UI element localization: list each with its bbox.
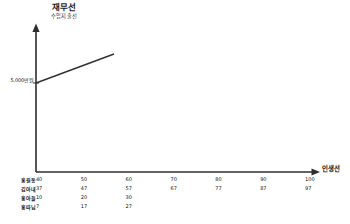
cell-value: [170, 203, 215, 212]
row-label: 김아내: [0, 185, 36, 194]
cell-value: 10: [36, 194, 81, 203]
x-axis-arrowhead: [312, 168, 321, 175]
cell-value: 17: [81, 203, 126, 212]
cell-value: [215, 194, 260, 203]
y-axis-arrowhead: [32, 24, 39, 33]
cell-value: 40: [36, 176, 81, 185]
y-axis-value-label: 5,000만원: [2, 76, 34, 83]
cell-value: 20: [81, 194, 126, 203]
cell-value: 100: [305, 176, 350, 185]
cell-value: 67: [170, 185, 215, 194]
financial-life-chart: 재무선 수입지출선 5,000만원 인생선 홍길동 40 50 60 70 80…: [0, 0, 350, 224]
cell-value: 90: [260, 176, 305, 185]
row-label: 홍따님: [0, 203, 36, 212]
table-row: 홍길동 40 50 60 70 80 90 100: [0, 176, 350, 185]
row-label: 홍아들: [0, 194, 36, 203]
cell-value: 70: [170, 176, 215, 185]
cell-value: [305, 194, 350, 203]
cell-value: 80: [215, 176, 260, 185]
x-axis-label: 인생선: [322, 163, 340, 173]
cell-value: 50: [81, 176, 126, 185]
cell-value: 30: [126, 194, 171, 203]
cell-value: 37: [36, 185, 81, 194]
cell-value: 60: [126, 176, 171, 185]
cell-value: 7: [36, 203, 81, 212]
cell-value: 97: [305, 185, 350, 194]
cell-value: 47: [81, 185, 126, 194]
cell-value: 27: [126, 203, 171, 212]
cell-value: [170, 194, 215, 203]
age-data-table: 홍길동 40 50 60 70 80 90 100 김아내 37 47 57 6…: [0, 176, 350, 212]
cell-value: [305, 203, 350, 212]
table-row: 홍따님 7 17 27: [0, 203, 350, 212]
table-row: 김아내 37 47 57 67 77 87 97: [0, 185, 350, 194]
cell-value: [260, 194, 305, 203]
cell-value: [215, 203, 260, 212]
cell-value: 57: [126, 185, 171, 194]
cell-value: [260, 203, 305, 212]
row-label: 홍길동: [0, 176, 36, 185]
table-row: 홍아들 10 20 30: [0, 194, 350, 203]
income-expense-line: [36, 54, 114, 83]
cell-value: 87: [260, 185, 305, 194]
cell-value: 77: [215, 185, 260, 194]
